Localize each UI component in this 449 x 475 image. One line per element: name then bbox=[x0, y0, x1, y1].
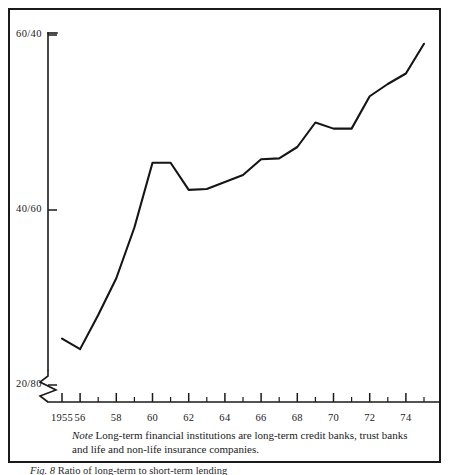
note-text: Long-term financial institutions are lon… bbox=[72, 429, 407, 455]
plot-area bbox=[10, 10, 439, 410]
x-axis-tick-label: 60 bbox=[147, 412, 158, 423]
figure-caption: Fig. 8 Ratio of long-term to short-term … bbox=[30, 464, 430, 475]
ticks-group bbox=[48, 35, 424, 402]
figure-caption-label: Fig. 8 bbox=[30, 465, 55, 475]
x-axis-tick-label: 74 bbox=[400, 412, 411, 423]
x-axis-tick-label: 1955 bbox=[51, 412, 73, 423]
x-axis-tick-label: 72 bbox=[364, 412, 375, 423]
note-label: Note bbox=[72, 429, 93, 441]
y-axis-break-symbol bbox=[40, 370, 56, 402]
axes-group bbox=[40, 33, 439, 402]
figure-root: 60/40 40/60 20/80 1955565860626466687072… bbox=[0, 0, 449, 475]
figure-caption-text: Ratio of long-term to short-term lending bbox=[58, 465, 227, 475]
x-axis-tick-label: 66 bbox=[256, 412, 267, 423]
x-axis-tick-label: 58 bbox=[111, 412, 122, 423]
frame-bottom-rule bbox=[8, 461, 441, 463]
frame-right-rule bbox=[439, 8, 441, 463]
x-axis-tick-label: 68 bbox=[292, 412, 303, 423]
figure-note: Note Long-term financial institutions ar… bbox=[72, 429, 412, 456]
x-axis-tick-label: 70 bbox=[328, 412, 339, 423]
x-axis-labels: 195556586062646668707274 bbox=[10, 412, 439, 428]
x-axis-tick-label: 62 bbox=[183, 412, 194, 423]
data-series-line bbox=[62, 44, 424, 349]
chart-canvas bbox=[10, 10, 439, 410]
x-axis-tick-label: 64 bbox=[219, 412, 230, 423]
x-axis-tick-label: 56 bbox=[75, 412, 86, 423]
